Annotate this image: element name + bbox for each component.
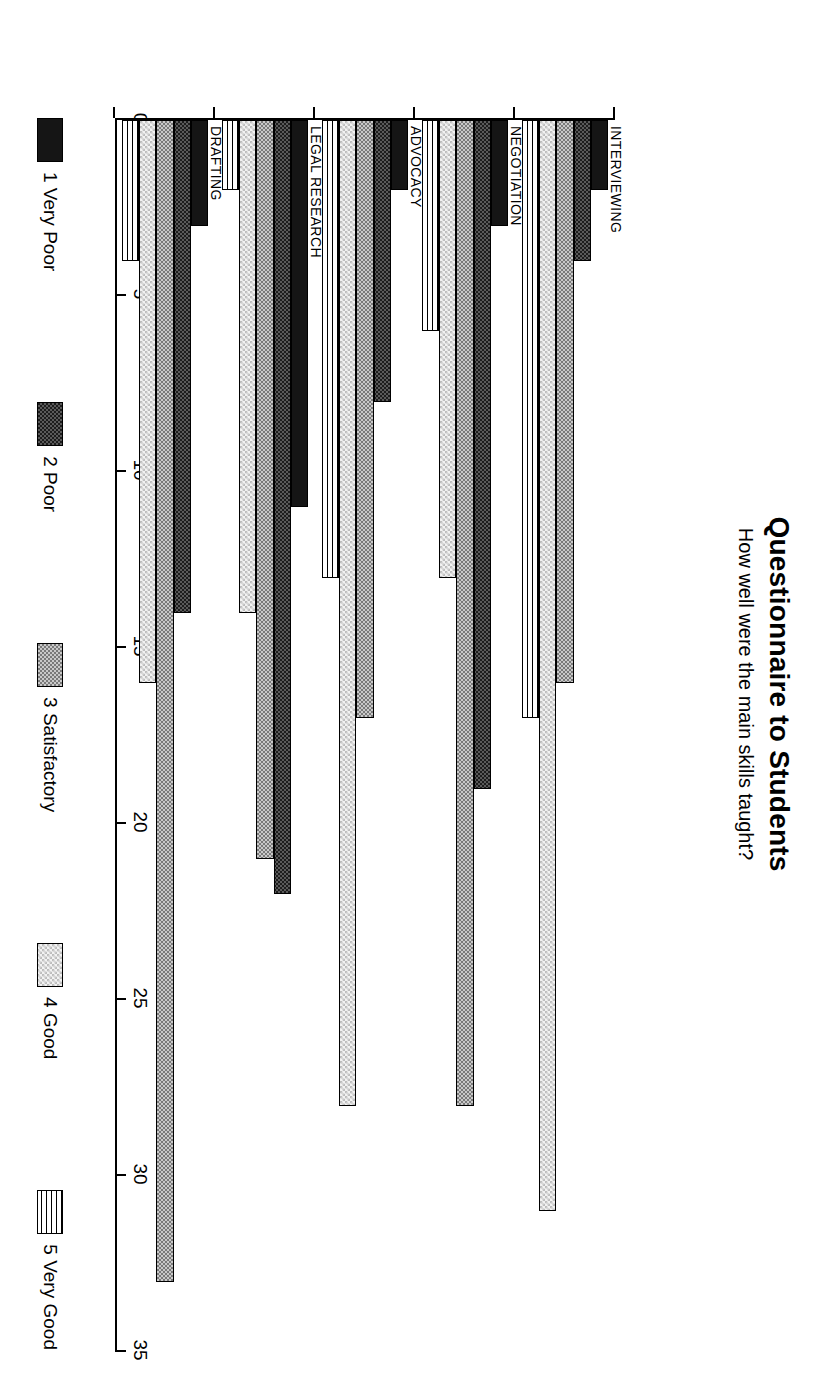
bar xyxy=(139,120,156,683)
bar xyxy=(291,120,308,507)
bar xyxy=(522,120,539,718)
chart-subtitle: How well were the main skills taught? xyxy=(734,0,757,1388)
category-axis-tick xyxy=(213,107,215,118)
legend-swatch-icon xyxy=(37,118,63,162)
rotated-figure-wrapper: Questionnaire to Students How well were … xyxy=(0,0,815,1388)
category-axis-tick xyxy=(613,107,615,118)
chart-legend: 1 Very Poor2 Poor3 Satisfactory4 Good5 V… xyxy=(20,118,80,1350)
page-title: Questionnaire to Students xyxy=(763,0,795,1388)
bar xyxy=(174,120,191,613)
category-label: DRAFTING xyxy=(209,126,223,201)
bar-group: DRAFTING xyxy=(115,120,215,1350)
legend-item[interactable]: 5 Very Good xyxy=(37,1190,63,1350)
bar xyxy=(239,120,256,613)
legend-item[interactable]: 4 Good xyxy=(37,943,63,1059)
legend-label: 1 Very Poor xyxy=(39,172,61,271)
category-label: LEGAL RESEARCH xyxy=(309,126,323,258)
bar xyxy=(274,120,291,894)
category-axis-tick xyxy=(513,107,515,118)
bar xyxy=(122,120,139,261)
legend-swatch-icon xyxy=(37,943,63,987)
bar xyxy=(439,120,456,578)
category-label: ADVOCACY xyxy=(409,126,423,208)
legend-label: 2 Poor xyxy=(39,456,61,512)
chart-header: Questionnaire to Students How well were … xyxy=(734,0,795,1388)
bar xyxy=(356,120,373,718)
plot-area: 05101520253035 INTERVIEWINGNEGOTIATIONAD… xyxy=(115,118,615,1350)
bar-group: NEGOTIATION xyxy=(415,120,515,1350)
bar xyxy=(456,120,473,1106)
bar xyxy=(191,120,208,226)
bar xyxy=(256,120,273,859)
legend-label: 4 Good xyxy=(39,997,61,1059)
bar xyxy=(156,120,173,1282)
legend-item[interactable]: 3 Satisfactory xyxy=(37,643,63,812)
bar xyxy=(422,120,439,331)
legend-item[interactable]: 2 Poor xyxy=(37,402,63,512)
bar xyxy=(222,120,239,190)
legend-swatch-icon xyxy=(37,402,63,446)
bar xyxy=(322,120,339,578)
category-axis-tick xyxy=(113,107,115,118)
bar-group: LEGAL RESEARCH xyxy=(215,120,315,1350)
category-axis-tick xyxy=(413,107,415,118)
axis-tick xyxy=(115,1350,126,1352)
bar xyxy=(574,120,591,261)
legend-swatch-icon xyxy=(37,643,63,687)
bar-group: INTERVIEWING xyxy=(515,120,615,1350)
legend-label: 5 Very Good xyxy=(39,1244,61,1350)
bar xyxy=(374,120,391,402)
category-axis-tick xyxy=(313,107,315,118)
legend-item[interactable]: 1 Very Poor xyxy=(37,118,63,271)
bar xyxy=(539,120,556,1211)
bar xyxy=(556,120,573,683)
bar xyxy=(339,120,356,1106)
bar xyxy=(391,120,408,190)
legend-label: 3 Satisfactory xyxy=(39,697,61,812)
bar xyxy=(491,120,508,226)
legend-swatch-icon xyxy=(37,1190,63,1234)
chart-figure: Questionnaire to Students How well were … xyxy=(0,0,815,1388)
category-label: INTERVIEWING xyxy=(609,126,623,233)
bar-group: ADVOCACY xyxy=(315,120,415,1350)
bar xyxy=(591,120,608,190)
category-label: NEGOTIATION xyxy=(509,126,523,226)
bar xyxy=(474,120,491,789)
